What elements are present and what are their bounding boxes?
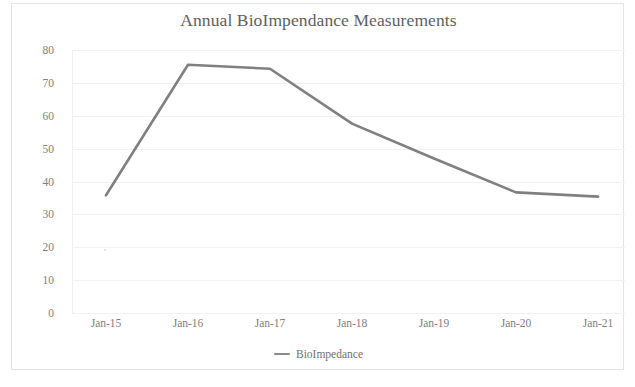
y-axis-tick-label: 0: [48, 307, 54, 319]
chart-container: Annual BioImpendance Measurements 807060…: [11, 3, 624, 370]
plot-area: 80706050403020100: [61, 47, 625, 312]
gridline: [72, 313, 625, 314]
x-axis-tick-label: Jan-21: [583, 317, 614, 329]
y-axis-tick-label: 80: [43, 44, 55, 56]
y-axis-tick-label: 10: [43, 274, 55, 286]
x-axis-tick-label: Jan-20: [501, 317, 532, 329]
y-axis-tick-label: 60: [43, 110, 55, 122]
x-axis-tick-label: Jan-19: [419, 317, 450, 329]
chart-title: Annual BioImpendance Measurements: [12, 10, 625, 31]
series-line-bioimpedance: [61, 47, 625, 312]
scan-artifact-speck: [104, 249, 106, 251]
y-axis-tick-label: 30: [43, 208, 55, 220]
y-axis-tick-label: 40: [43, 176, 55, 188]
x-axis-tick-label: Jan-18: [337, 317, 368, 329]
chart-legend: BioImpedance: [12, 348, 625, 360]
y-axis-tick-label: 20: [43, 241, 55, 253]
x-axis-tick-label: Jan-16: [173, 317, 204, 329]
x-axis-tick-label: Jan-17: [255, 317, 286, 329]
legend-label-bioimpedance: BioImpedance: [296, 348, 363, 360]
y-axis-tick-label: 70: [43, 77, 55, 89]
y-axis-tick-label: 50: [43, 143, 55, 155]
legend-line-swatch-icon: [274, 353, 290, 356]
x-axis-tick-label: Jan-15: [91, 317, 122, 329]
